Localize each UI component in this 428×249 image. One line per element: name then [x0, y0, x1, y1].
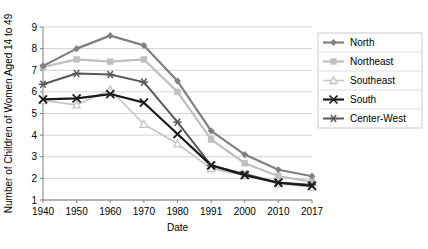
- data-point-marker-diamond: [275, 166, 282, 173]
- data-point-marker-square: [107, 58, 113, 64]
- y-axis-tick-labels: 123456789: [31, 22, 37, 206]
- data-point-marker-square: [242, 160, 248, 166]
- data-point-marker-square: [174, 89, 180, 95]
- x-tick-label: 1960: [99, 206, 122, 217]
- x-tick-label: 1950: [66, 206, 89, 217]
- x-tick-label: 2010: [267, 206, 290, 217]
- x-axis-title: Date: [167, 222, 189, 233]
- y-tick-label: 2: [31, 173, 37, 184]
- series-northeast: [40, 56, 315, 185]
- legend-item-northeast[interactable]: Northeast: [323, 56, 394, 67]
- axes-group: [40, 27, 312, 203]
- chart-legend: NorthNortheastSoutheastSouthCenter-West: [318, 33, 422, 128]
- series-line: [43, 36, 312, 177]
- data-point-marker-diamond: [330, 39, 337, 46]
- y-tick-label: 5: [31, 108, 37, 119]
- data-point-marker-star: [72, 70, 80, 77]
- line-chart: 123456789 194019501960197019801991200020…: [0, 0, 428, 249]
- series-line: [43, 90, 312, 187]
- y-tick-label: 1: [31, 195, 37, 206]
- x-tick-label: 2017: [301, 206, 324, 217]
- y-tick-label: 4: [31, 130, 37, 141]
- x-tick-label: 2000: [234, 206, 257, 217]
- y-tick-label: 6: [31, 86, 37, 97]
- data-point-marker-star: [106, 71, 114, 78]
- y-tick-label: 8: [31, 43, 37, 54]
- data-point-marker-diamond: [107, 32, 114, 39]
- legend-item-label: Northeast: [350, 56, 394, 67]
- legend-item-label: Southeast: [350, 75, 395, 86]
- chart-container: 123456789 194019501960197019801991200020…: [0, 0, 428, 249]
- data-point-marker-star: [329, 115, 337, 122]
- y-tick-label: 3: [31, 151, 37, 162]
- legend-item-southeast[interactable]: Southeast: [323, 75, 395, 86]
- legend-item-south[interactable]: South: [323, 94, 376, 105]
- data-point-marker-cross: [174, 130, 182, 138]
- x-tick-label: 1970: [133, 206, 156, 217]
- legend-item-center-west[interactable]: Center-West: [323, 113, 406, 124]
- data-point-marker-square: [73, 56, 79, 62]
- x-tick-label: 1980: [166, 206, 189, 217]
- y-tick-label: 7: [31, 65, 37, 76]
- data-point-marker-triangle: [174, 140, 181, 147]
- series-north: [40, 32, 316, 180]
- x-tick-label: 1991: [200, 206, 223, 217]
- legend-item-label: North: [350, 37, 374, 48]
- data-series-layer: [39, 32, 316, 190]
- data-point-marker-square: [330, 58, 336, 64]
- legend-item-label: Center-West: [350, 113, 406, 124]
- x-axis-tick-labels: 194019501960197019801991200020102017: [32, 206, 324, 217]
- y-tick-label: 9: [31, 22, 37, 33]
- data-point-marker-square: [208, 136, 214, 142]
- x-tick-label: 1940: [32, 206, 55, 217]
- legend-item-label: South: [350, 94, 376, 105]
- data-point-marker-square: [275, 173, 281, 179]
- series-center-west: [39, 70, 316, 189]
- y-axis-title: Number of Children of Women Aged 14 to 4…: [3, 13, 14, 213]
- legend-item-north[interactable]: North: [323, 37, 374, 48]
- data-point-marker-square: [141, 56, 147, 62]
- data-point-marker-triangle: [330, 77, 337, 84]
- data-point-marker-diamond: [73, 45, 80, 52]
